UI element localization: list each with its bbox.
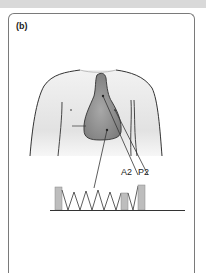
a2-bar bbox=[121, 193, 128, 210]
s1-bar bbox=[55, 187, 62, 210]
p2-label: P2 bbox=[138, 167, 149, 177]
phonocardiogram bbox=[50, 185, 185, 211]
p2-bar bbox=[138, 185, 145, 210]
a2-label: A2 bbox=[121, 167, 132, 177]
murmur-zigzag bbox=[62, 190, 121, 210]
murmur-tail bbox=[128, 186, 138, 210]
